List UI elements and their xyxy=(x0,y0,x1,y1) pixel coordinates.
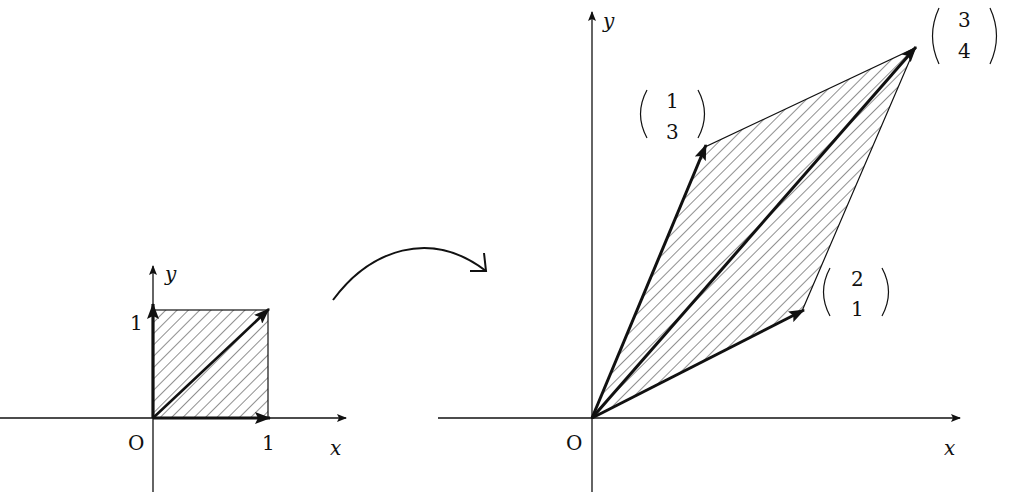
x-tick-label: 1 xyxy=(262,431,275,455)
y-tick-label: 1 xyxy=(130,311,143,335)
svg-text:2: 2 xyxy=(851,267,864,291)
vector-3-4 xyxy=(592,47,916,418)
transform-arrow xyxy=(333,248,486,300)
transformation-diagram: O 1 1 x y O x y 2 1 1 3 xyxy=(0,0,1019,501)
vector-label-3-4: 3 4 xyxy=(933,8,997,64)
origin-label: O xyxy=(566,431,582,455)
origin-label: O xyxy=(128,431,144,455)
svg-text:3: 3 xyxy=(666,120,679,144)
right-figure: O x y 2 1 1 3 3 4 xyxy=(438,8,997,492)
vector-label-2-1: 2 1 xyxy=(824,267,889,321)
svg-text:1: 1 xyxy=(851,297,864,321)
svg-text:3: 3 xyxy=(958,8,971,32)
x-axis-label: x xyxy=(944,436,955,460)
svg-text:1: 1 xyxy=(666,89,679,113)
left-figure: O 1 1 x y xyxy=(0,262,346,492)
y-axis-label: y xyxy=(164,262,177,286)
y-axis-label: y xyxy=(602,9,615,33)
x-axis-label: x xyxy=(330,436,341,460)
svg-text:4: 4 xyxy=(958,39,971,63)
vector-label-1-3: 1 3 xyxy=(641,89,705,144)
